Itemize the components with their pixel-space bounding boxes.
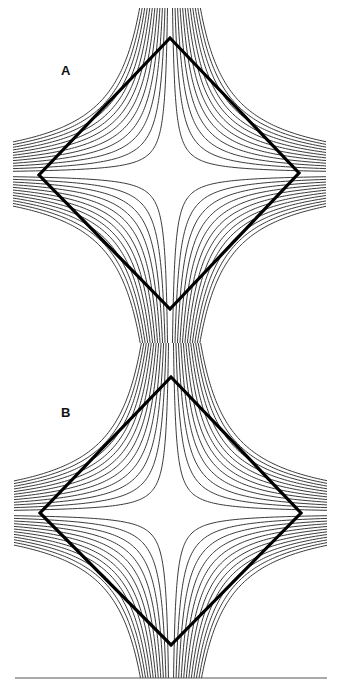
streamline — [14, 343, 141, 481]
streamline — [13, 179, 165, 343]
streamline — [175, 8, 326, 169]
hyperbolic-streamlines — [13, 8, 327, 678]
streamline — [13, 8, 167, 171]
streamline-diagram: A B — [0, 0, 337, 690]
streamline — [14, 542, 143, 678]
streamline — [13, 8, 147, 150]
streamline — [14, 343, 149, 489]
streamline — [14, 343, 146, 486]
streamline — [200, 8, 326, 142]
streamline — [201, 343, 327, 481]
streamline — [14, 537, 148, 678]
streamline — [175, 179, 326, 343]
streamline-plot — [0, 0, 337, 690]
streamline — [200, 206, 326, 343]
streamline — [195, 8, 326, 147]
streamline — [13, 203, 143, 343]
streamline — [13, 177, 168, 343]
streamline — [14, 529, 156, 678]
streamline — [13, 198, 148, 343]
streamline — [178, 343, 327, 505]
streamline — [13, 206, 140, 343]
streamline — [14, 545, 140, 678]
streamline — [13, 8, 145, 147]
streamline — [193, 343, 327, 489]
panel-label-a: A — [61, 64, 70, 77]
streamline — [196, 343, 327, 486]
streamline — [176, 343, 327, 508]
streamline — [173, 343, 327, 510]
streamline — [13, 8, 140, 142]
streamline — [14, 343, 166, 508]
streamline — [198, 8, 326, 144]
streamline — [14, 516, 168, 678]
streamline — [177, 182, 326, 343]
streamline — [185, 8, 326, 158]
streamline — [192, 198, 326, 343]
streamline — [13, 8, 142, 145]
streamline — [193, 8, 326, 150]
streamline — [186, 529, 327, 678]
streamline — [199, 543, 327, 678]
streamline — [197, 204, 326, 343]
streamline — [13, 8, 152, 155]
streamline — [176, 518, 327, 678]
streamline — [14, 343, 144, 484]
streamline — [13, 201, 145, 343]
streamline — [173, 8, 326, 171]
streamline — [198, 343, 327, 483]
streamline — [13, 182, 163, 343]
streamline — [188, 8, 326, 155]
streamline — [202, 545, 327, 678]
streamline — [172, 177, 326, 343]
streamline — [14, 518, 166, 678]
streamline — [194, 537, 327, 678]
streamline — [14, 540, 146, 678]
diamond-outline-a — [39, 38, 299, 309]
streamline — [196, 540, 327, 678]
diamond-outline-b — [40, 377, 301, 645]
panel-label-b: B — [61, 406, 70, 419]
streamline — [195, 201, 326, 343]
streamline — [13, 8, 165, 169]
streamline — [14, 343, 164, 505]
